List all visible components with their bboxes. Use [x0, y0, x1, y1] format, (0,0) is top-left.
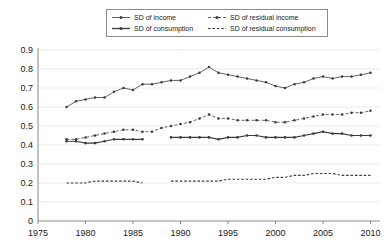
series-marker-sd-of-residual-income	[113, 130, 116, 133]
series-marker-sd-of-income	[284, 87, 287, 90]
series-marker-sd-of-income	[360, 73, 363, 76]
series-marker-sd-of-consumption	[122, 138, 125, 141]
series-marker-sd-of-residual-income	[160, 127, 163, 129]
series-marker-sd-of-consumption	[179, 136, 182, 139]
series-marker-sd-of-consumption	[198, 136, 201, 139]
series-marker-sd-of-residual-income	[151, 130, 154, 133]
series-marker-sd-of-residual-income	[255, 119, 258, 122]
series-marker-sd-of-residual-income	[331, 113, 334, 116]
series-marker-sd-of-consumption	[284, 136, 287, 139]
series-marker-sd-of-income	[122, 87, 125, 90]
series-marker-sd-of-residual-income	[84, 136, 87, 139]
series-marker-sd-of-residual-income	[141, 130, 144, 133]
series-marker-sd-of-income	[341, 75, 344, 78]
series-marker-sd-of-residual-income	[265, 119, 268, 122]
series-marker-sd-of-income	[303, 81, 306, 84]
series-marker-sd-of-consumption	[208, 136, 211, 139]
series-marker-sd-of-consumption	[312, 132, 315, 135]
gridlines	[38, 50, 380, 202]
x-tick-label: 2010	[360, 228, 380, 238]
series-marker-sd-of-consumption	[274, 136, 277, 139]
series-marker-sd-of-income	[189, 75, 192, 78]
y-tick-label: 0.2	[20, 178, 33, 188]
series-marker-sd-of-consumption	[255, 134, 258, 137]
series-marker-sd-of-income	[246, 77, 249, 80]
y-tick-label: 0.3	[20, 159, 33, 169]
x-tick-label: 2000	[265, 228, 285, 238]
series-marker-sd-of-residual-income	[217, 117, 220, 120]
series-marker-sd-of-income	[179, 79, 182, 82]
x-tick-label: 1985	[123, 228, 143, 238]
series-marker-sd-of-consumption	[331, 132, 334, 135]
series-marker-sd-of-consumption	[189, 136, 192, 139]
series-marker-sd-of-residual-income	[227, 117, 230, 120]
series-line-sd-of-residual-income	[67, 111, 371, 140]
series-marker-sd-of-income	[331, 77, 334, 80]
series-marker-sd-of-consumption	[360, 134, 363, 137]
series-line-sd-of-consumption	[171, 132, 371, 140]
series-marker-sd-of-residual-income	[94, 134, 97, 137]
series-marker-sd-of-income	[65, 106, 68, 109]
y-tick-label: 0.7	[20, 83, 33, 93]
series-marker-sd-of-residual-income	[132, 129, 135, 132]
series-marker-sd-of-consumption	[65, 140, 68, 143]
x-tick-label: 2005	[313, 228, 333, 238]
y-tick-label: 0	[28, 216, 33, 226]
series-marker-sd-of-consumption	[132, 138, 135, 141]
series-marker-sd-of-residual-income	[170, 125, 173, 128]
y-tick-label: 0.5	[20, 121, 33, 131]
series-marker-sd-of-consumption	[369, 134, 372, 137]
series-marker-sd-of-residual-income	[208, 113, 211, 116]
axes	[38, 48, 380, 221]
series-marker-sd-of-residual-income	[303, 117, 306, 120]
chart-plot-area: 00.10.20.30.40.50.60.70.80.9 19751980198…	[0, 0, 388, 247]
y-tick-label: 0.8	[20, 64, 33, 74]
x-tick-label: 1980	[75, 228, 95, 238]
series-marker-sd-of-income	[274, 85, 277, 88]
series-marker-sd-of-income	[170, 79, 173, 82]
series-marker-sd-of-consumption	[217, 138, 220, 141]
series-marker-sd-of-consumption	[75, 140, 78, 143]
series-marker-sd-of-income	[75, 100, 78, 103]
y-axis-tick-labels: 00.10.20.30.40.50.60.70.80.9	[20, 45, 33, 226]
y-tick-label: 0.6	[20, 102, 33, 112]
series-marker-sd-of-consumption	[84, 142, 87, 145]
y-tick-label: 0.1	[20, 197, 33, 207]
series-marker-sd-of-consumption	[94, 142, 97, 145]
y-tick-label: 0.4	[20, 140, 33, 150]
series-marker-sd-of-income	[236, 75, 239, 78]
series-marker-sd-of-consumption	[236, 136, 239, 139]
series-marker-sd-of-residual-income	[341, 113, 344, 116]
series-marker-sd-of-income	[255, 79, 258, 82]
series-marker-sd-of-residual-income	[198, 117, 201, 120]
series-marker-sd-of-consumption	[293, 136, 296, 139]
series-marker-sd-of-residual-income	[179, 123, 182, 126]
series-marker-sd-of-consumption	[322, 130, 325, 133]
series-marker-sd-of-consumption	[265, 136, 268, 139]
series-marker-sd-of-income	[151, 83, 154, 86]
series-marker-sd-of-income	[103, 96, 106, 99]
series-marker-sd-of-consumption	[113, 138, 116, 141]
series-marker-sd-of-income	[293, 83, 296, 86]
series-marker-sd-of-income	[369, 72, 372, 75]
series-marker-sd-of-income	[312, 77, 315, 80]
series-marker-sd-of-residual-income	[312, 115, 315, 118]
series-marker-sd-of-residual-income	[103, 132, 106, 135]
series-marker-sd-of-income	[94, 96, 97, 99]
series-marker-sd-of-residual-income	[293, 119, 296, 122]
series-marker-sd-of-income	[227, 73, 230, 76]
series-line-sd-of-residual-consumption	[171, 174, 371, 182]
y-tick-label: 0.9	[20, 45, 33, 55]
series-marker-sd-of-residual-income	[369, 110, 372, 113]
series-marker-sd-of-residual-income	[322, 113, 325, 116]
series-marker-sd-of-income	[141, 83, 144, 86]
series-marker-sd-of-residual-income	[246, 119, 249, 122]
series-marker-sd-of-consumption	[350, 134, 353, 137]
series-marker-sd-of-income	[198, 72, 201, 75]
x-tick-label: 1975	[28, 228, 48, 238]
series-marker-sd-of-consumption	[227, 136, 230, 139]
series-marker-sd-of-consumption	[246, 134, 249, 137]
series-marker-sd-of-income	[350, 75, 353, 78]
series-marker-sd-of-income	[217, 72, 220, 75]
series-marker-sd-of-residual-income	[350, 111, 353, 114]
